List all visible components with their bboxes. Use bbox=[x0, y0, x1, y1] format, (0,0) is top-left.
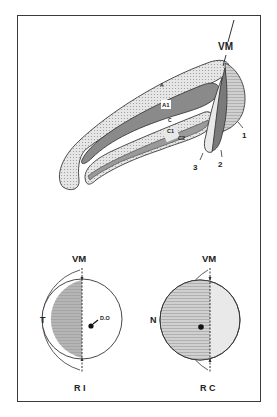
label-c1: C1 bbox=[167, 128, 174, 134]
retina-contralateral: VM N R C bbox=[150, 253, 240, 393]
optic-disc-right bbox=[198, 324, 204, 330]
optic-disc-left bbox=[88, 323, 93, 328]
label-c: C bbox=[168, 117, 172, 123]
label-t: T bbox=[40, 315, 46, 325]
caption-ri: R I bbox=[74, 383, 86, 393]
callout-2: 2 bbox=[218, 160, 223, 169]
label-n: N bbox=[150, 315, 157, 325]
label-c2: C2 bbox=[178, 135, 185, 141]
nasal-shaded-region bbox=[161, 280, 210, 360]
label-a: A bbox=[160, 82, 164, 88]
arrow-top-right bbox=[209, 277, 212, 281]
callout-3-line bbox=[200, 153, 203, 160]
label-vm-right: VM bbox=[202, 253, 216, 264]
vm-line-top bbox=[228, 20, 234, 42]
label-a1: A1 bbox=[162, 102, 170, 108]
label-vm-left: VM bbox=[72, 253, 86, 264]
callout-1-line bbox=[238, 122, 243, 128]
label-vm-top: VM bbox=[218, 41, 233, 52]
retina-ipsilateral: VM T D.O R I bbox=[40, 253, 122, 393]
lgn-diagram: VM A A1 C C1 C2 1 2 3 bbox=[59, 20, 247, 190]
callout-2-line bbox=[221, 150, 222, 157]
label-do: D.O bbox=[100, 315, 111, 321]
callout-3: 3 bbox=[193, 163, 198, 172]
callout-1: 1 bbox=[242, 131, 247, 140]
figure-canvas: VM A A1 C C1 C2 1 2 3 VM T D.O R I bbox=[0, 0, 277, 417]
caption-rc: R C bbox=[200, 383, 216, 393]
